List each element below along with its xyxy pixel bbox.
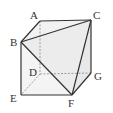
cube-diagram: A C B D G E F <box>0 0 113 113</box>
label-D: D <box>29 66 37 78</box>
label-C: C <box>93 9 100 21</box>
label-A: A <box>30 9 38 21</box>
label-E: E <box>10 92 17 104</box>
label-B: B <box>10 36 17 48</box>
label-G: G <box>94 70 102 82</box>
label-F: F <box>68 97 74 109</box>
